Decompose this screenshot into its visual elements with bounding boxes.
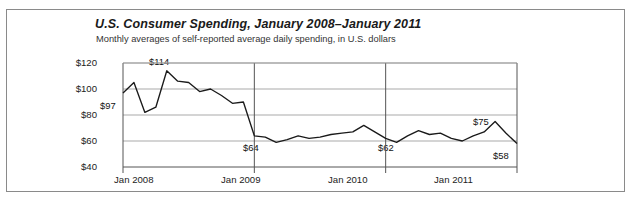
spending-line-series xyxy=(123,71,517,144)
gridlines-group xyxy=(123,63,517,167)
chart-figure-container: U.S. Consumer Spending, January 2008–Jan… xyxy=(6,9,625,192)
axis-lines-group xyxy=(123,63,517,173)
chart-plot-area xyxy=(7,10,626,193)
